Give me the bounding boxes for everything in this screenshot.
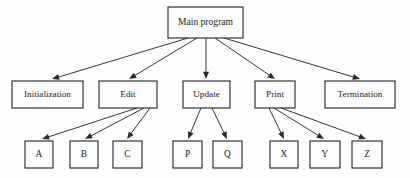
arrowhead-icon <box>127 131 134 139</box>
node-label: Initialization <box>24 89 71 99</box>
edge-main-to-update <box>203 38 209 79</box>
node-label: Edit <box>120 89 136 99</box>
arrowhead-icon <box>188 131 194 139</box>
arrowhead-icon <box>352 74 360 80</box>
node-label: Z <box>364 149 370 159</box>
edge-edit-to-b <box>85 108 144 139</box>
node-print[interactable]: Print <box>255 81 295 108</box>
node-initialization[interactable]: Initialization <box>12 81 83 108</box>
arrowhead-icon <box>42 134 50 140</box>
arrowhead-icon <box>316 133 324 139</box>
arrowhead-icon <box>203 72 209 79</box>
edge-update-to-p <box>188 108 201 139</box>
edge-line <box>212 108 224 134</box>
node-label: Print <box>266 89 284 99</box>
edge-line <box>131 108 150 134</box>
node-termination[interactable]: Termination <box>325 81 395 108</box>
edge-main-to-initialization <box>52 38 188 80</box>
node-z[interactable]: Z <box>352 141 382 168</box>
edge-line <box>134 38 197 76</box>
edge-line <box>190 108 201 133</box>
nodes-layer: Main programInitializationEditUpdatePrin… <box>12 7 395 168</box>
edge-main-to-edit <box>129 38 197 79</box>
node-label: Update <box>193 89 220 99</box>
node-update[interactable]: Update <box>183 81 230 108</box>
node-label: Main program <box>178 16 234 27</box>
arrowhead-icon <box>267 72 275 79</box>
node-label: Q <box>224 149 231 159</box>
node-label: B <box>81 149 87 159</box>
node-label: X <box>281 149 288 159</box>
edge-line <box>48 108 137 137</box>
node-y[interactable]: Y <box>310 141 340 168</box>
node-label: A <box>36 149 43 159</box>
node-p[interactable]: P <box>173 141 202 168</box>
node-main[interactable]: Main program <box>168 7 243 38</box>
structure-chart-canvas: Main programInitializationEditUpdatePrin… <box>0 0 410 178</box>
edge-print-to-z <box>281 108 366 139</box>
edge-edit-to-c <box>127 108 150 139</box>
edge-main-to-termination <box>224 38 360 80</box>
node-x[interactable]: X <box>270 141 298 168</box>
node-c[interactable]: C <box>113 141 142 168</box>
edge-line <box>58 38 188 77</box>
node-label: Termination <box>338 89 383 99</box>
node-label: C <box>124 149 130 159</box>
node-edit[interactable]: Edit <box>99 81 157 108</box>
node-b[interactable]: B <box>70 141 98 168</box>
edge-update-to-q <box>212 108 227 139</box>
arrowhead-icon <box>358 134 366 140</box>
node-q[interactable]: Q <box>213 141 242 168</box>
structure-chart-diagram: Main programInitializationEditUpdatePrin… <box>0 0 410 178</box>
node-a[interactable]: A <box>25 141 53 168</box>
node-label: P <box>185 149 190 159</box>
arrowhead-icon <box>52 74 60 80</box>
node-label: Y <box>322 149 329 159</box>
edge-line <box>90 108 144 136</box>
edge-line <box>281 108 360 137</box>
arrowhead-icon <box>129 73 137 79</box>
